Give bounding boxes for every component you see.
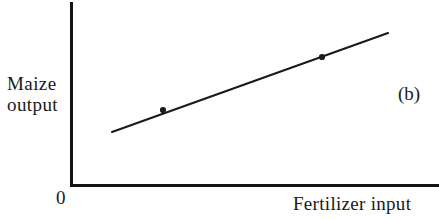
y-axis-label: Maize output: [7, 74, 58, 115]
plot-area: [0, 0, 439, 220]
panel-label: (b): [398, 84, 420, 105]
data-line-maize-response: [112, 33, 388, 132]
data-point-marker: [160, 107, 166, 113]
x-axis-label: Fertilizer input: [293, 194, 411, 215]
chart-figure: Maize output 0 Fertilizer input (b): [0, 0, 439, 220]
y-axis-label-line-1: Maize: [7, 74, 58, 95]
origin-label: 0: [56, 188, 66, 209]
data-point-marker: [319, 54, 325, 60]
y-axis-label-line-2: output: [7, 95, 58, 116]
data-point-markers: [160, 54, 325, 113]
